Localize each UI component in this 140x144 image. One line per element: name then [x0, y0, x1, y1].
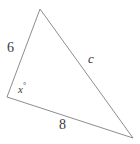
- side-label-bottom: 8: [59, 118, 66, 132]
- side-label-right: c: [88, 52, 94, 65]
- angle-label-x: x°: [18, 82, 26, 95]
- triangle-outline: [7, 9, 133, 138]
- triangle-drawing: [0, 0, 140, 144]
- triangle-figure: 6 c 8 x°: [0, 0, 140, 144]
- degree-symbol-icon: °: [23, 81, 26, 90]
- side-label-left: 6: [7, 41, 14, 55]
